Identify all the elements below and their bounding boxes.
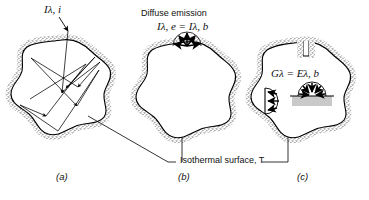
panel-letter-b: (b) xyxy=(178,172,190,182)
diffuse-emission-title: Diffuse emission xyxy=(141,9,207,18)
cavity-aperture-notch-c xyxy=(300,41,312,58)
panel-letter-a-text: (a) xyxy=(56,171,68,182)
panel-letter-c: (c) xyxy=(297,172,308,182)
isothermal-surface-label: Isothermal surface, T xyxy=(180,156,264,165)
incident-intensity-label: Iλ, i xyxy=(44,4,61,15)
incident-intensity-text: Iλ, i xyxy=(44,3,61,15)
blackbody-cavity-figure: Iλ, i Diffuse emission Iλ, e = Iλ, b Gλ … xyxy=(0,0,369,200)
panel-letter-a: (a) xyxy=(56,172,68,182)
diffuse-emission-equation-text: Iλ, e = Iλ, b xyxy=(157,20,208,32)
irradiation-equation-text: Gλ = Eλ, b xyxy=(271,67,319,79)
isothermal-surface-text: Isothermal surface, T xyxy=(180,155,264,165)
panel-letter-b-text: (b) xyxy=(178,171,190,182)
diffuse-emission-equation: Iλ, e = Iλ, b xyxy=(157,21,208,32)
diffuse-emission-title-text: Diffuse emission xyxy=(141,8,207,18)
irradiation-equation: Gλ = Eλ, b xyxy=(271,68,319,79)
panel-letter-c-text: (c) xyxy=(297,171,308,182)
small-object-c xyxy=(292,96,332,106)
